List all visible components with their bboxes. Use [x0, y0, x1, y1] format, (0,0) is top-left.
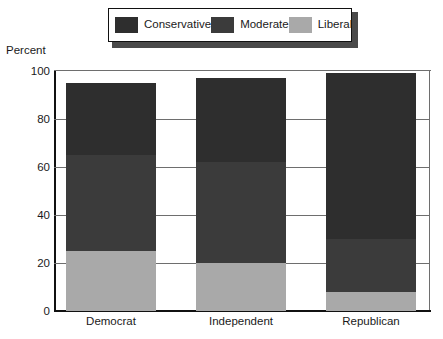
legend-item-conservative: Conservative	[115, 17, 211, 33]
plot-area	[54, 71, 430, 311]
legend-item-liberal: Liberal	[289, 17, 353, 33]
bar-segment-liberal	[196, 263, 286, 311]
bar-democrat	[66, 71, 156, 311]
legend-label-conservative: Conservative	[144, 19, 211, 31]
bar-segment-conservative	[66, 83, 156, 155]
x-tick-label-independent: Independent	[209, 315, 273, 327]
bar-segment-liberal	[66, 251, 156, 311]
bar-segment-liberal	[326, 292, 416, 311]
bar-segment-moderate	[196, 162, 286, 263]
legend-swatch-conservative	[115, 17, 138, 33]
bar-republican	[326, 71, 416, 311]
bar-independent	[196, 71, 286, 311]
bar-segment-moderate	[326, 239, 416, 292]
y-tick-label: 0	[4, 305, 50, 317]
chart-legend: Conservative Moderate Liberal	[108, 8, 352, 42]
y-tick-label: 20	[4, 257, 50, 269]
bar-segment-conservative	[326, 73, 416, 239]
chart-figure: Conservative Moderate Liberal Percent 10…	[0, 0, 443, 339]
legend-label-liberal: Liberal	[318, 19, 353, 31]
y-axis-ticks: 100 80 60 40 20 0	[0, 0, 50, 339]
x-tick-label-democrat: Democrat	[86, 315, 136, 327]
y-tick-label: 80	[4, 113, 50, 125]
bar-segment-moderate	[66, 155, 156, 251]
legend-label-moderate: Moderate	[240, 19, 289, 31]
y-tick-label: 40	[4, 209, 50, 221]
bar-segment-conservative	[196, 78, 286, 162]
y-tick-label: 60	[4, 161, 50, 173]
legend-swatch-moderate	[211, 17, 234, 33]
legend-item-moderate: Moderate	[211, 17, 289, 33]
x-tick-label-republican: Republican	[342, 315, 400, 327]
legend-swatch-liberal	[289, 17, 312, 33]
y-tick-label: 100	[4, 65, 50, 77]
